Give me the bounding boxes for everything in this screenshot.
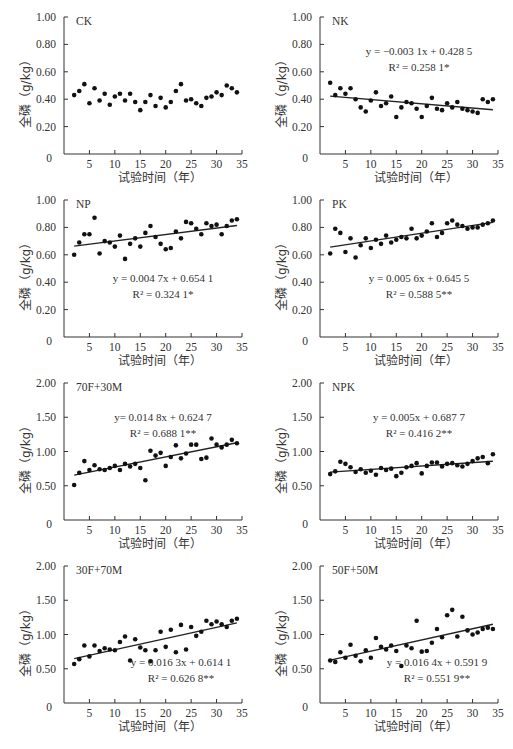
- data-point: [445, 613, 450, 618]
- y-tick-label: 0: [46, 152, 52, 164]
- data-point: [77, 470, 82, 475]
- data-point: [224, 224, 229, 229]
- data-point: [97, 649, 102, 654]
- data-point: [414, 236, 419, 241]
- data-point: [204, 455, 209, 460]
- r-squared-label: R² = 0.588 5**: [386, 288, 452, 300]
- data-point: [82, 82, 87, 87]
- data-point: [409, 464, 414, 469]
- data-point: [425, 229, 430, 234]
- data-point: [148, 224, 153, 229]
- data-point: [338, 231, 343, 236]
- x-tick-label: 30: [211, 158, 223, 170]
- y-tick-label: 0.40: [292, 93, 312, 105]
- data-point: [123, 98, 128, 103]
- panel-title: NP: [76, 198, 91, 210]
- data-point: [374, 636, 379, 641]
- data-point: [470, 632, 475, 637]
- data-point: [328, 80, 333, 85]
- data-point: [169, 246, 174, 251]
- data-point: [460, 106, 465, 111]
- data-point: [379, 104, 384, 109]
- data-point: [163, 105, 168, 110]
- data-point: [455, 100, 460, 105]
- data-point: [384, 647, 389, 652]
- data-point: [414, 106, 419, 111]
- data-point: [72, 253, 77, 258]
- data-point: [353, 97, 358, 102]
- y-tick-label: 0.50: [292, 663, 312, 675]
- data-point: [174, 650, 179, 655]
- data-point: [333, 93, 338, 98]
- data-point: [419, 233, 424, 238]
- data-point: [199, 629, 204, 634]
- data-point: [174, 89, 179, 94]
- x-axis-label: 试验时间（年）: [118, 717, 202, 734]
- data-point: [92, 643, 97, 648]
- y-tick-label: 0: [302, 335, 308, 347]
- y-tick-label: 1.50: [292, 411, 312, 423]
- data-point: [87, 101, 92, 106]
- data-point: [440, 108, 445, 113]
- data-point: [333, 226, 338, 231]
- data-point: [235, 441, 240, 446]
- data-point: [107, 240, 112, 245]
- data-point: [163, 464, 168, 469]
- data-point: [343, 655, 348, 660]
- y-tick-label: 0.20: [36, 121, 56, 133]
- data-point: [475, 630, 480, 635]
- data-point: [338, 650, 343, 655]
- y-tick-label: 1.50: [36, 411, 56, 423]
- data-point: [107, 102, 112, 107]
- y-tick-label: 0.40: [36, 93, 56, 105]
- regression-equation: y = 0.005 6x + 0.645 5: [369, 272, 470, 284]
- regression-equation: y = 0.005x + 0.687 7: [373, 411, 466, 423]
- data-point: [123, 462, 128, 467]
- data-point: [491, 452, 496, 457]
- data-point: [209, 94, 214, 99]
- data-point: [353, 653, 358, 658]
- data-point: [369, 246, 374, 251]
- data-point: [358, 659, 363, 664]
- y-axis-label: 全磷（g/kg）: [272, 603, 289, 677]
- y-axis-label: 全磷（g/kg）: [272, 54, 289, 128]
- data-point: [128, 91, 133, 96]
- data-point: [384, 101, 389, 106]
- y-tick-label: 1.00: [36, 194, 56, 206]
- data-point: [87, 654, 92, 659]
- data-point: [348, 642, 353, 647]
- data-point: [465, 628, 470, 633]
- data-point: [133, 236, 138, 241]
- y-tick-label: 0.60: [292, 249, 312, 261]
- data-point: [450, 218, 455, 223]
- x-tick-label: 5: [343, 524, 349, 536]
- data-point: [128, 464, 133, 469]
- data-point: [419, 471, 424, 476]
- data-point: [343, 91, 348, 96]
- data-point: [486, 625, 491, 630]
- data-point: [353, 255, 358, 260]
- data-point: [409, 101, 414, 106]
- y-tick-label: 0: [302, 701, 308, 713]
- data-point: [118, 640, 123, 645]
- data-point: [230, 619, 235, 624]
- chart-panel-ck: 00.200.400.600.801.005101520253035CK全磷（g…: [0, 0, 256, 185]
- data-point: [450, 105, 455, 110]
- data-point: [77, 89, 82, 94]
- data-point: [214, 619, 219, 624]
- data-point: [209, 622, 214, 627]
- data-point: [169, 100, 174, 105]
- y-tick-label: 1.50: [36, 594, 56, 606]
- data-point: [204, 619, 209, 624]
- y-tick-label: 0.40: [36, 276, 56, 288]
- data-point: [430, 221, 435, 226]
- data-point: [419, 115, 424, 120]
- y-tick-label: 0.80: [292, 221, 312, 233]
- data-point: [475, 111, 480, 116]
- data-point: [328, 472, 333, 477]
- data-point: [123, 634, 128, 639]
- panel-title: 30F+70M: [76, 564, 122, 576]
- y-tick-label: 1.00: [292, 11, 312, 23]
- data-point: [87, 468, 92, 473]
- x-tick-label: 35: [236, 707, 248, 719]
